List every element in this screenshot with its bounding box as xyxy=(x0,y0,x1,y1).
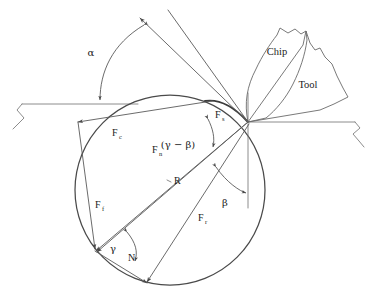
fr-label: F xyxy=(198,212,204,223)
normal-force: N xyxy=(128,252,135,263)
gamma-minus-beta-label: (γ − β) xyxy=(161,139,195,150)
diagram-canvas: Chip Tool α F c F f F s F n xyxy=(0,0,383,297)
tool-label: Tool xyxy=(298,79,317,90)
r-label: R xyxy=(174,175,181,186)
n-label: N xyxy=(128,252,135,263)
beta-label: β xyxy=(222,197,228,208)
fc-subscript: c xyxy=(119,133,122,140)
alpha-label: α xyxy=(88,47,95,58)
fc-label: F xyxy=(112,127,118,138)
fn-label: F xyxy=(152,144,158,155)
merchant-circle-diagram: Chip Tool α F c F f F s F n xyxy=(0,0,383,297)
ff-label: F xyxy=(95,199,101,210)
chip-label: Chip xyxy=(267,46,287,57)
gamma-label: γ xyxy=(110,243,116,254)
fs-label: F xyxy=(215,109,221,120)
